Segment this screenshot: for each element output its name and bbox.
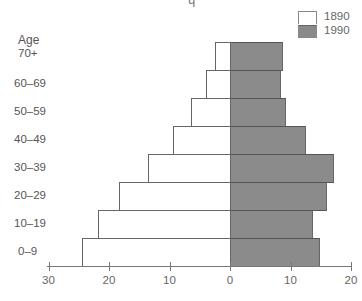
bar-1990	[230, 154, 334, 183]
x-tick	[291, 262, 292, 271]
y-axis-label: 20–29	[14, 189, 46, 201]
y-axis-label: 0–9	[18, 245, 37, 257]
bar-1890	[173, 126, 230, 155]
bar-1990	[230, 126, 306, 155]
y-axis-label: 30–39	[14, 161, 46, 173]
x-tick	[49, 262, 50, 271]
y-axis-label: 60–69	[14, 77, 46, 89]
x-tick-label: 10	[284, 274, 297, 286]
bar-1890	[206, 70, 230, 99]
legend-label: 1890	[324, 10, 350, 22]
bar-1990	[230, 98, 286, 127]
y-axis-label: 10–19	[14, 217, 46, 229]
x-tick-label: 30	[42, 274, 55, 286]
legend: 1890 1990	[298, 11, 362, 39]
bar-1990	[230, 210, 313, 239]
y-axis-title: Age	[18, 33, 39, 47]
bar-1890	[191, 98, 230, 127]
x-tick-label: 0	[227, 274, 233, 286]
legend-swatch-1990	[298, 25, 317, 38]
bar-1890	[148, 154, 230, 183]
x-tick-label: 20	[103, 274, 116, 286]
population-pyramid-chart: ɥ 1890 1990 Age 70+60–6950–5940–4930–392…	[0, 0, 362, 301]
y-axis-label: 50–59	[14, 105, 46, 117]
bar-1990	[230, 238, 320, 267]
bar-1890	[215, 42, 230, 71]
x-tick-label: 20	[345, 274, 358, 286]
x-tick	[170, 262, 171, 271]
bar-1990	[230, 182, 327, 211]
legend-label: 1990	[324, 24, 350, 36]
x-axis	[47, 266, 352, 267]
x-tick-label: 10	[163, 274, 176, 286]
x-tick	[230, 262, 231, 271]
legend-item-1990: 1990	[298, 25, 362, 39]
x-tick	[351, 262, 352, 271]
x-tick	[109, 262, 110, 271]
legend-item-1890: 1890	[298, 11, 362, 25]
legend-swatch-1890	[298, 11, 317, 24]
bar-1990	[230, 70, 281, 99]
y-axis-label: 70+	[18, 47, 38, 59]
y-axis-label: 40–49	[14, 133, 46, 145]
title-remnant: ɥ	[188, 0, 195, 7]
bar-1890	[98, 210, 230, 239]
zero-line	[230, 42, 231, 267]
bar-1990	[230, 42, 283, 71]
bar-1890	[82, 238, 230, 267]
bar-1890	[119, 182, 230, 211]
